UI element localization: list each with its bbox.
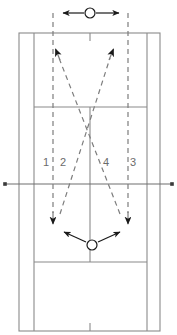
diagram-canvas: 1 2 4 3 [0,0,177,335]
bottom-movement-arrow-left [64,232,86,242]
net-post-right [170,182,174,186]
route-label-4: 4 [103,156,109,168]
route-label-1: 1 [43,156,49,168]
diagonal-to-upper-left-arrowhead [56,49,61,60]
tennis-court-diagram: 1 2 4 3 [0,0,177,335]
court-lines [3,33,174,331]
net-post-left [3,182,7,186]
bottom-movement-arrow-right [98,232,120,242]
bottom-player-marker [87,240,97,250]
diagonal-to-upper-right-arrowhead [109,49,114,60]
diagonal-to-upper-right-line [60,58,110,214]
top-player-movement [63,8,119,18]
top-player-marker [85,8,95,18]
bottom-player-movement [64,232,120,250]
route-label-3: 3 [130,156,136,168]
route-label-2: 2 [60,156,66,168]
diagonal-dashed-paths [56,49,121,214]
